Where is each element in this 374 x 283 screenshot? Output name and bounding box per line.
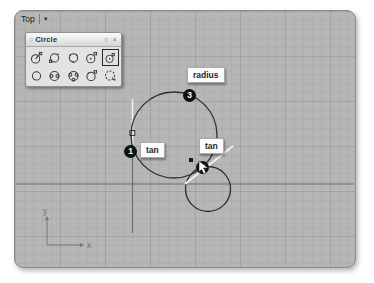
page: Top ▾ ○ Circle ○ × xyxy=(0,0,374,283)
toolbar-options-icon[interactable]: ○ xyxy=(103,36,110,44)
circle-center-radius-icon xyxy=(29,50,44,65)
circle-tangent-to-2-curves-icon xyxy=(47,68,62,83)
circle-diameter-icon xyxy=(84,50,99,65)
circle-tangent-to-3-curves-button[interactable] xyxy=(65,67,82,84)
circle-tangent-tangent-radius-button[interactable] xyxy=(102,49,119,66)
circle-sketch-button[interactable] xyxy=(102,67,119,84)
circle-vertical-button[interactable] xyxy=(28,67,45,84)
circle-fit-points-button[interactable] xyxy=(83,67,100,84)
step-marker-3: 3 xyxy=(183,89,196,102)
step-marker-2: 2 xyxy=(196,161,209,174)
viewport-title-label: Top xyxy=(21,14,35,24)
circle-diameter-button[interactable] xyxy=(83,49,100,66)
circle-2-points-icon xyxy=(47,50,62,65)
circle-toolbar-body xyxy=(26,47,121,86)
circle-fit-points-icon xyxy=(84,68,99,83)
circle-tangent-to-3-curves-icon xyxy=(66,68,81,83)
circle-toolbar-titlebar[interactable]: ○ Circle ○ × xyxy=(26,33,121,47)
circle-2-points-button[interactable] xyxy=(46,49,63,66)
toolbar-grip-icon: ○ xyxy=(29,36,33,43)
circle-toolbar: ○ Circle ○ × xyxy=(25,32,122,87)
circle-tangent-tangent-radius-icon xyxy=(103,51,117,65)
circle-tangent-to-2-curves-button[interactable] xyxy=(46,67,63,84)
circle-vertical-icon xyxy=(29,68,44,83)
viewport-title-divider xyxy=(39,14,40,24)
radius-snap-label: radius xyxy=(187,67,225,83)
viewport-title[interactable]: Top ▾ xyxy=(21,12,48,26)
circle-3-points-button[interactable] xyxy=(65,49,82,66)
tan-snap-label-line: tan xyxy=(140,142,165,158)
viewport-dropdown-icon[interactable]: ▾ xyxy=(44,16,48,23)
tan-snap-label-circle: tan xyxy=(199,138,224,154)
toolbar-title: Circle xyxy=(35,35,101,44)
circle-3-points-icon xyxy=(66,50,81,65)
circle-sketch-icon xyxy=(103,68,118,83)
circle-center-radius-button[interactable] xyxy=(28,49,45,66)
toolbar-close-icon[interactable]: × xyxy=(112,36,118,44)
step-marker-1: 1 xyxy=(124,145,137,158)
